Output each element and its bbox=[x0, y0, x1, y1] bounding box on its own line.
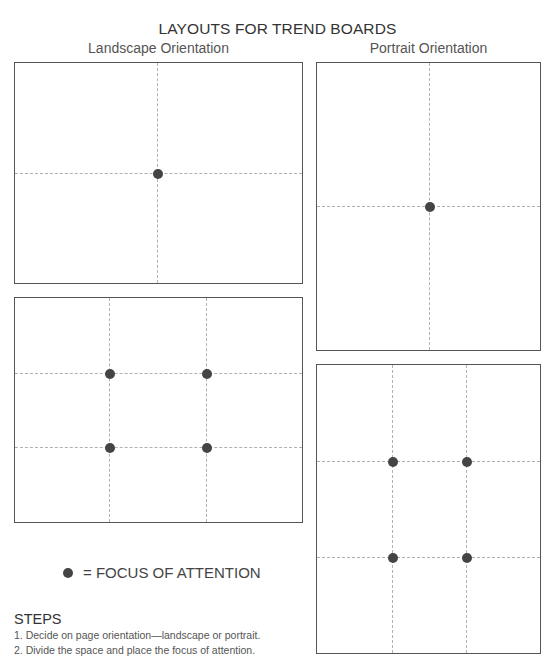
focus-dot-icon bbox=[425, 202, 435, 212]
legend-label: = FOCUS OF ATTENTION bbox=[83, 564, 261, 581]
landscape-single-focus-board bbox=[14, 62, 303, 284]
focus-dot-icon bbox=[63, 568, 73, 578]
legend: = FOCUS OF ATTENTION bbox=[63, 564, 261, 581]
focus-dot-icon bbox=[462, 553, 472, 563]
focus-dot-icon bbox=[202, 369, 212, 379]
focus-dot-icon bbox=[153, 169, 163, 179]
horizontal-third-guide bbox=[317, 461, 540, 462]
step-item: 1. Decide on page orientation—landscape … bbox=[14, 629, 260, 641]
focus-dot-icon bbox=[462, 457, 472, 467]
steps-heading: STEPS bbox=[14, 611, 62, 627]
portrait-thirds-board bbox=[316, 364, 541, 654]
landscape-thirds-board bbox=[14, 297, 303, 523]
vertical-third-guide bbox=[109, 298, 110, 522]
focus-dot-icon bbox=[105, 369, 115, 379]
focus-dot-icon bbox=[388, 457, 398, 467]
vertical-third-guide bbox=[392, 365, 393, 653]
portrait-single-focus-board bbox=[316, 62, 541, 351]
horizontal-third-guide bbox=[15, 373, 302, 374]
landscape-heading: Landscape Orientation bbox=[14, 40, 303, 56]
horizontal-third-guide bbox=[15, 447, 302, 448]
portrait-heading: Portrait Orientation bbox=[316, 40, 541, 56]
focus-dot-icon bbox=[202, 443, 212, 453]
focus-dot-icon bbox=[388, 553, 398, 563]
step-item: 2. Divide the space and place the focus … bbox=[14, 644, 255, 656]
vertical-third-guide bbox=[206, 298, 207, 522]
focus-dot-icon bbox=[105, 443, 115, 453]
diagram-title: LAYOUTS FOR TREND BOARDS bbox=[0, 20, 555, 38]
horizontal-third-guide bbox=[317, 557, 540, 558]
vertical-third-guide bbox=[466, 365, 467, 653]
